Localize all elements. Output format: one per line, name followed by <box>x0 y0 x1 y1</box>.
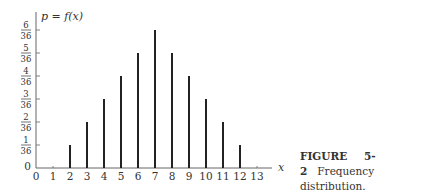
y-tick-denominator: 36 <box>21 77 32 87</box>
figure-caption-text: Frequency distribution. <box>300 165 374 191</box>
axis-labels: 012345678910111213x1362363364365366360p … <box>21 10 285 182</box>
y-tick-numerator: 4 <box>23 66 28 76</box>
figure-label: FIGURE <box>300 150 347 162</box>
y-tick-numerator: 3 <box>23 89 28 99</box>
y-tick-denominator: 36 <box>21 54 32 64</box>
x-tick-label: 1 <box>50 170 57 182</box>
y-tick-numerator: 1 <box>23 135 28 145</box>
y-tick-numerator: 5 <box>23 43 28 53</box>
x-tick-label: 5 <box>118 170 125 182</box>
y-tick-denominator: 36 <box>21 146 32 156</box>
y-tick-numerator: 6 <box>23 20 28 30</box>
x-tick-label: 12 <box>233 170 246 182</box>
x-tick-label: 6 <box>135 170 142 182</box>
x-axis-label: x <box>278 161 285 174</box>
x-tick-label: 3 <box>84 170 91 182</box>
y-tick-denominator: 36 <box>21 31 32 41</box>
y-tick-denominator: 36 <box>21 123 32 133</box>
y-tick-denominator: 36 <box>21 100 32 110</box>
bars <box>70 30 240 168</box>
x-tick-label: 2 <box>67 170 74 182</box>
x-tick-label: 0 <box>33 170 40 182</box>
x-tick-label: 13 <box>250 170 263 182</box>
frequency-distribution-chart: 012345678910111213x1362363364365366360p … <box>0 0 300 191</box>
x-tick-label: 10 <box>199 170 212 182</box>
y-tick-label-zero: 0 <box>24 160 31 172</box>
y-tick-numerator: 2 <box>23 112 28 122</box>
figure-caption: FIGURE 5-2 Frequency distribution. <box>300 149 431 191</box>
x-tick-label: 4 <box>101 170 108 182</box>
y-axis-label: p = f(x) <box>41 10 83 23</box>
x-tick-label: 8 <box>169 170 176 182</box>
x-tick-label: 11 <box>216 170 229 182</box>
x-tick-label: 7 <box>152 170 159 182</box>
x-tick-label: 9 <box>186 170 193 182</box>
